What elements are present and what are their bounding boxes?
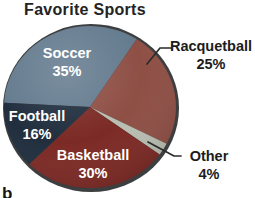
- football-slice-label: Football 16%: [0, 107, 74, 143]
- soccer-slice-label: Soccer 35%: [27, 44, 107, 80]
- basketball-slice-label: Basketball 30%: [48, 146, 138, 182]
- pie-chart-figure: Favorite Sports Soccer 35% Racquetball 2…: [0, 0, 255, 198]
- soccer-label-text: Soccer: [27, 44, 107, 62]
- other-slice-label: Other 4%: [179, 147, 239, 183]
- racquetball-slice-label: Racquetball 25%: [168, 37, 254, 73]
- other-label-text: Other: [179, 147, 239, 165]
- racquetball-label-text: Racquetball: [168, 37, 254, 55]
- football-percent: 16%: [0, 125, 74, 143]
- soccer-percent: 35%: [27, 62, 107, 80]
- basketball-percent: 30%: [48, 164, 138, 182]
- other-percent: 4%: [179, 165, 239, 183]
- football-label-text: Football: [0, 107, 74, 125]
- racquetball-percent: 25%: [168, 55, 254, 73]
- cropped-list-marker: b: [2, 184, 12, 198]
- basketball-label-text: Basketball: [48, 146, 138, 164]
